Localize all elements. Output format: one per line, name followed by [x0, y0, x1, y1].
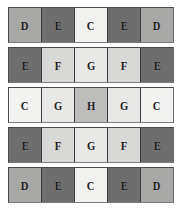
cell-label: E	[22, 139, 29, 152]
grid-cell-f: F	[108, 48, 141, 82]
cell-label: G	[87, 59, 95, 72]
grid-cell-h: H	[75, 88, 108, 122]
cell-label: C	[153, 99, 160, 112]
cell-label: G	[87, 139, 95, 152]
grid-cell-c: C	[75, 8, 108, 42]
cell-label: F	[55, 139, 61, 152]
cell-label: F	[121, 139, 127, 152]
grid-cell-d: D	[141, 8, 173, 42]
grid-cell-d: D	[9, 8, 42, 42]
cell-label: E	[55, 179, 62, 192]
grid-cell-g: G	[108, 88, 141, 122]
grid-row: DECED	[8, 7, 174, 43]
grid-cell-d: D	[9, 168, 42, 202]
grid-cell-d: D	[141, 168, 173, 202]
grid-cell-e: E	[42, 8, 75, 42]
cell-label: E	[121, 179, 128, 192]
cell-label: E	[22, 59, 29, 72]
grid-cell-f: F	[42, 128, 75, 162]
cell-label: C	[21, 99, 28, 112]
grid-cell-g: G	[75, 128, 108, 162]
cell-label: E	[55, 19, 62, 32]
grid-row: EFGFE	[8, 127, 174, 163]
grid-cell-e: E	[9, 48, 42, 82]
grid-cell-c: C	[9, 88, 42, 122]
cell-label: D	[153, 179, 160, 192]
cell-label: C	[87, 19, 94, 32]
cell-label: E	[154, 139, 161, 152]
grid-row: DECED	[8, 167, 174, 203]
letter-grid: DECEDEFGFECGHGCEFGFEDECED	[0, 0, 182, 209]
cell-label: D	[153, 19, 160, 32]
grid-cell-f: F	[108, 128, 141, 162]
grid-row: CGHGC	[8, 87, 174, 123]
grid-cell-e: E	[9, 128, 42, 162]
grid-cell-e: E	[108, 8, 141, 42]
cell-label: E	[121, 19, 128, 32]
cell-label: F	[121, 59, 127, 72]
grid-cell-c: C	[75, 168, 108, 202]
cell-label: G	[54, 99, 62, 112]
cell-label: G	[120, 99, 128, 112]
grid-cell-e: E	[42, 168, 75, 202]
cell-label: F	[55, 59, 61, 72]
cell-label: E	[154, 59, 161, 72]
grid-cell-e: E	[108, 168, 141, 202]
cell-label: H	[87, 99, 95, 112]
grid-cell-f: F	[42, 48, 75, 82]
cell-label: D	[21, 19, 28, 32]
grid-cell-g: G	[42, 88, 75, 122]
grid-cell-e: E	[141, 128, 173, 162]
grid-row: EFGFE	[8, 47, 174, 83]
grid-cell-c: C	[141, 88, 173, 122]
grid-cell-g: G	[75, 48, 108, 82]
cell-label: D	[21, 179, 28, 192]
grid-cell-e: E	[141, 48, 173, 82]
cell-label: C	[87, 179, 94, 192]
